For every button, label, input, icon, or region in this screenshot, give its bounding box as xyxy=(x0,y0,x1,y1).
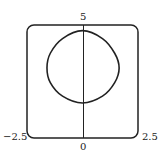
x-max-tick-label: 2.5 xyxy=(142,132,158,142)
x-min-tick-label: −2.5 xyxy=(3,132,27,142)
y-max-tick-label: 5 xyxy=(80,12,86,22)
x-origin-tick-label: 0 xyxy=(80,142,86,152)
plot-frame xyxy=(27,25,138,138)
